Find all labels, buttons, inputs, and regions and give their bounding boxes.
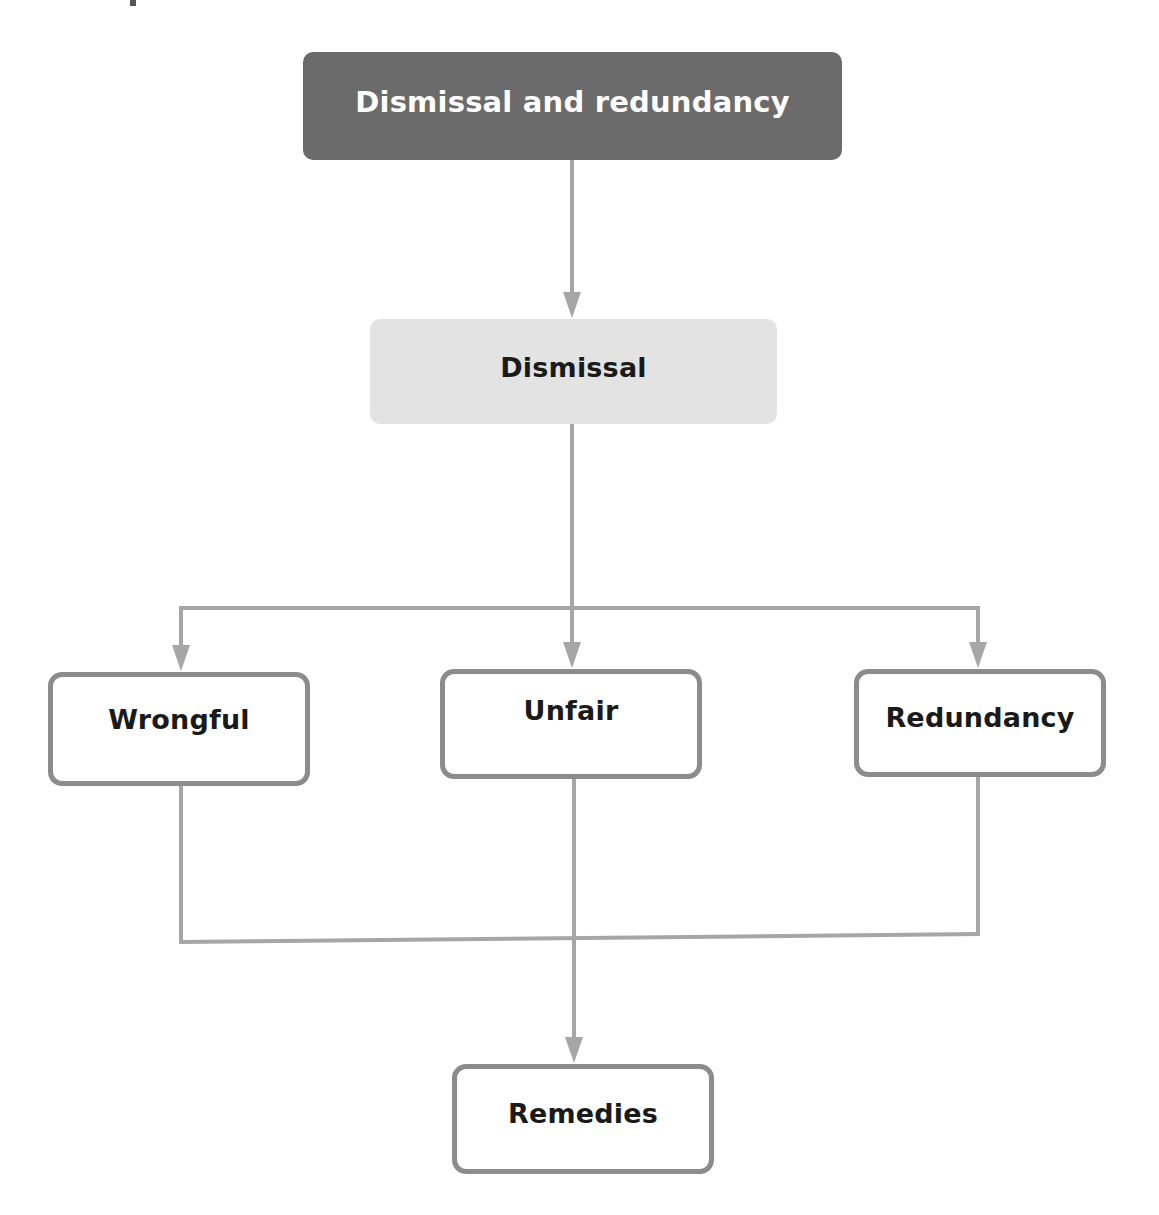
arrowhead-dismissal xyxy=(563,292,581,318)
node-label: Remedies xyxy=(508,1098,658,1129)
node-dismissal: Dismissal xyxy=(370,319,777,424)
node-unfair: Unfair xyxy=(440,669,702,779)
node-remedies: Remedies xyxy=(452,1064,714,1174)
node-dismissal-and-redundancy: Dismissal and redundancy xyxy=(303,52,842,160)
node-wrongful: Wrongful xyxy=(48,672,310,786)
arrowhead-redundancy xyxy=(969,642,987,668)
node-redundancy: Redundancy xyxy=(854,669,1106,777)
connector-lines xyxy=(0,0,1159,1215)
node-label: Dismissal and redundancy xyxy=(355,85,790,119)
arrowhead-wrongful xyxy=(172,645,190,671)
node-label: Unfair xyxy=(524,695,619,726)
arrowhead-remedies xyxy=(565,1037,583,1063)
node-label: Wrongful xyxy=(108,704,250,735)
edge-merge-bar xyxy=(181,934,978,942)
node-label: Dismissal xyxy=(500,352,647,383)
node-label: Redundancy xyxy=(885,702,1074,733)
arrowhead-unfair xyxy=(563,642,581,668)
